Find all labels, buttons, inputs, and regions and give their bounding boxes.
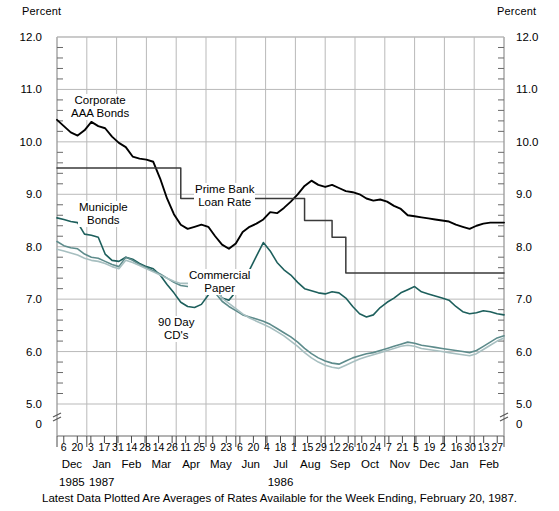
x-tick-day-label: 3	[88, 441, 94, 453]
annotation-line: Bonds	[79, 214, 128, 227]
y-tick-label-right: 10.0	[516, 136, 550, 148]
series-commercial-paper	[57, 241, 504, 364]
y-tick-label-right: 5.0	[516, 398, 550, 410]
x-tick-day-label: 26	[342, 441, 354, 453]
x-tick-day-label: 1	[291, 441, 297, 453]
x-tick-day-label: 10	[356, 441, 368, 453]
y-tick-label-right: 12.0	[516, 31, 550, 43]
x-tick-day-label: 28	[139, 441, 151, 453]
x-tick-day-label: 25	[193, 441, 205, 453]
x-axis-month-label: Feb	[479, 458, 499, 470]
x-tick-day-label: 14	[126, 441, 138, 453]
annotation-line: Corporate	[71, 94, 129, 107]
x-axis-month-label: Jun	[241, 458, 260, 470]
x-tick-day-label: 29	[315, 441, 327, 453]
annotation-line: 90 Day	[158, 316, 194, 329]
x-tick-day-label: 27	[491, 441, 503, 453]
x-tick-day-label: 21	[397, 441, 409, 453]
y-tick-label-left: 11.0	[8, 83, 42, 95]
annotation-line: Paper	[189, 282, 250, 295]
x-axis-month-label: Feb	[122, 458, 142, 470]
annotation-line: Loan Rate	[195, 196, 254, 209]
annotation-prime-bank-loan-rate: Prime BankLoan Rate	[194, 183, 255, 209]
x-axis-year-label: 1987	[89, 476, 115, 488]
annotation-line: AAA Bonds	[71, 107, 129, 120]
x-axis-year-label: 1985	[59, 476, 85, 488]
x-axis-month-label: Dec	[62, 458, 82, 470]
annotation-line: Municiple	[79, 201, 128, 214]
x-tick-day-label: 19	[424, 441, 436, 453]
x-tick-day-label: 2	[440, 441, 446, 453]
x-axis-month-label: May	[210, 458, 232, 470]
y-tick-label-left: 0	[8, 418, 42, 430]
x-tick-day-label: 12	[329, 441, 341, 453]
y-tick-label-left: 5.0	[8, 398, 42, 410]
annotation-90-day-cds: 90 DayCD's	[157, 316, 195, 342]
y-tick-label-left: 10.0	[8, 136, 42, 148]
x-tick-day-label: 24	[369, 441, 381, 453]
x-tick-day-label: 15	[302, 441, 314, 453]
y-tick-label-left: 9.0	[8, 188, 42, 200]
x-axis-month-label: Mar	[151, 458, 171, 470]
x-tick-day-label: 16	[451, 441, 463, 453]
x-axis-month-label: Oct	[361, 458, 379, 470]
x-tick-day-label: 17	[99, 441, 111, 453]
x-axis-month-label: Dec	[419, 458, 439, 470]
x-axis-month-label: Sep	[330, 458, 350, 470]
annotation-line: Prime Bank	[195, 183, 254, 196]
annotation-line: Commercial	[189, 269, 250, 282]
chart-caption: Latest Data Plotted Are Averages of Rate…	[0, 492, 559, 504]
annotation-municiple-bonds: MunicipleBonds	[78, 201, 129, 227]
x-tick-day-label: 6	[237, 441, 243, 453]
annotation-commercial-paper: CommercialPaper	[188, 269, 251, 295]
x-tick-day-label: 9	[210, 441, 216, 453]
x-tick-day-label: 31	[112, 441, 124, 453]
y-tick-label-right: 9.0	[516, 188, 550, 200]
x-tick-day-label: 5	[413, 441, 419, 453]
x-tick-day-label: 7	[386, 441, 392, 453]
y-tick-label-right: 6.0	[516, 346, 550, 358]
x-tick-day-label: 20	[71, 441, 83, 453]
x-tick-day-label: 26	[166, 441, 178, 453]
x-tick-day-label: 4	[264, 441, 270, 453]
x-axis-month-label: Jan	[92, 458, 111, 470]
x-axis-month-label: Jan	[450, 458, 469, 470]
x-tick-day-label: 11	[180, 441, 191, 453]
series-corporate-aaa-bonds	[57, 120, 504, 249]
x-tick-day-label: 6	[61, 441, 67, 453]
y-tick-label-left: 8.0	[8, 241, 42, 253]
y-tick-label-right: 8.0	[516, 241, 550, 253]
chart-canvas	[0, 0, 559, 511]
y-tick-label-left: 12.0	[8, 31, 42, 43]
x-axis-month-label: Jul	[273, 458, 288, 470]
x-tick-day-label: 14	[153, 441, 165, 453]
x-axis-month-label: Aug	[300, 458, 320, 470]
x-axis-year-label: 1986	[268, 476, 294, 488]
chart-page: Percent Percent 12.011.010.09.08.07.06.0…	[0, 0, 559, 511]
x-tick-day-label: 13	[478, 441, 490, 453]
y-tick-label-left: 7.0	[8, 293, 42, 305]
x-tick-day-label: 20	[248, 441, 260, 453]
x-axis-month-label: Apr	[182, 458, 200, 470]
x-axis-month-label: Nov	[389, 458, 409, 470]
y-tick-label-right: 0	[516, 418, 550, 430]
annotation-corporate-aaa-bonds: CorporateAAA Bonds	[70, 94, 130, 120]
x-tick-day-label: 18	[275, 441, 287, 453]
series-municiple-bonds	[57, 218, 504, 317]
y-tick-label-left: 6.0	[8, 346, 42, 358]
x-tick-day-label: 23	[220, 441, 232, 453]
x-tick-day-label: 30	[464, 441, 476, 453]
y-tick-label-right: 11.0	[516, 83, 550, 95]
y-tick-label-right: 7.0	[516, 293, 550, 305]
annotation-line: CD's	[158, 329, 194, 342]
